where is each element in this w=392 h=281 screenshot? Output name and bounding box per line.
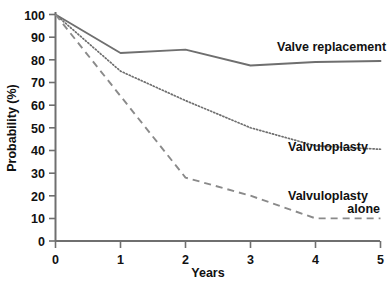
x-tick-label-1: 1 (117, 253, 124, 267)
y-tick-label-10: 10 (31, 212, 45, 226)
series-label-valvuloplasty-alone-line1: Valvuloplasty (288, 189, 368, 203)
y-axis-title: Probability (%) (5, 84, 19, 172)
y-tick-label-80: 80 (31, 54, 45, 68)
x-tick-label-5: 5 (377, 253, 384, 267)
y-tick-label-30: 30 (31, 167, 45, 181)
series-label-valvuloplasty: Valvuloplasty (288, 140, 368, 154)
y-tick-label-60: 60 (31, 99, 45, 113)
x-tick-label-4: 4 (312, 253, 319, 267)
x-tick-label-0: 0 (52, 253, 59, 267)
y-tick-label-50: 50 (31, 122, 45, 136)
x-tick-label-3: 3 (247, 253, 254, 267)
chart-container: 100 90 80 70 60 50 40 30 20 10 0 0 1 2 3… (0, 0, 392, 281)
y-tick-label-0: 0 (38, 235, 45, 249)
series-label-valvuloplasty-alone-line2: alone (347, 202, 380, 216)
x-axis-title: Years (191, 266, 224, 280)
y-tick-label-100: 100 (24, 9, 45, 23)
y-tick-label-70: 70 (31, 76, 45, 90)
y-tick-label-90: 90 (31, 31, 45, 45)
series-label-valve-replacement: Valve replacement (277, 40, 387, 54)
survival-curve-chart: 100 90 80 70 60 50 40 30 20 10 0 0 1 2 3… (0, 0, 392, 281)
y-tick-label-40: 40 (31, 144, 45, 158)
x-tick-label-2: 2 (182, 253, 189, 267)
y-tick-label-20: 20 (31, 190, 45, 204)
